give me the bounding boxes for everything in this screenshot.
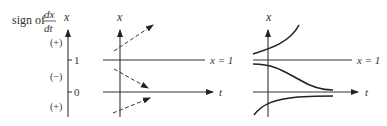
sign-positive-top: (+): [50, 37, 62, 49]
phase-diagram: sign of dx dt x 1 0 (+) (−) (+) x x = 1 …: [0, 0, 387, 126]
fraction-numerator: dx: [44, 8, 55, 20]
t-axis-label: t: [219, 86, 223, 98]
curve-above-one-diverging: [253, 25, 299, 54]
curve-below-zero-approaching: [254, 96, 333, 115]
line-x-equals-1-label: x = 1: [356, 54, 380, 66]
sign-positive-bottom: (+): [50, 101, 62, 113]
solution-curves-graph: x x = 1 t: [253, 10, 380, 117]
sign-column: sign of dx dt x 1 0 (+) (−) (+): [12, 8, 80, 117]
slope-arrow-down-middle: [114, 69, 148, 88]
fraction-denominator: dt: [44, 22, 54, 34]
x-axis-label: x: [265, 10, 272, 24]
tick-label-1: 1: [74, 54, 80, 66]
tick-label-0: 0: [74, 86, 80, 98]
line-x-equals-1-label: x = 1: [209, 54, 233, 66]
t-axis-label: t: [365, 86, 369, 98]
sign-negative-middle: (−): [50, 71, 62, 83]
slope-arrow-up-bottom: [113, 98, 150, 113]
sign-of-label: sign of: [12, 13, 45, 27]
x-axis-label: x: [63, 10, 70, 24]
direction-field-graph: x x = 1 t: [103, 10, 233, 117]
x-axis-label: x: [116, 10, 123, 24]
curve-between-decaying: [253, 64, 333, 90]
